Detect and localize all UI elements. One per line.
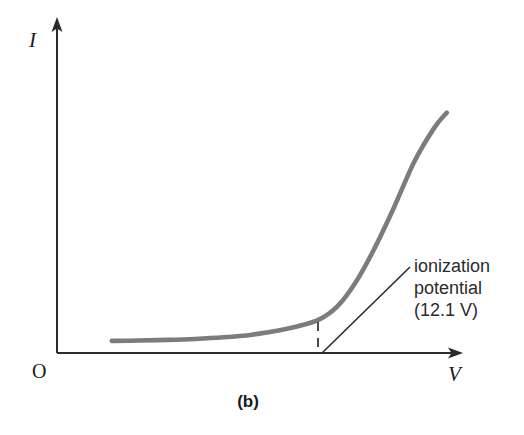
annotation-line-2: potential [414,278,482,298]
annotation-line-1: ionization [414,256,490,276]
annotation-line-3: (12.1 V) [414,300,478,320]
figure-container: I V O ionization potential (12.1 V) (b) [0,0,524,435]
chart-background [0,0,524,435]
origin-label: O [32,360,46,382]
x-axis-label: V [448,362,463,386]
y-axis-label: I [28,28,37,52]
panel-caption: (b) [237,392,259,411]
iv-characteristic-chart: I V O ionization potential (12.1 V) (b) [0,0,524,435]
